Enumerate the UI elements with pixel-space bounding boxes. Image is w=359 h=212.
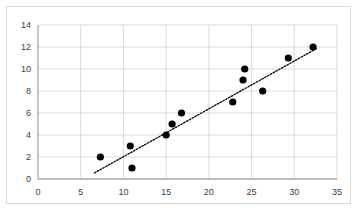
y-tick-labels: 02468101214: [21, 20, 31, 184]
axes: [38, 25, 337, 179]
y-tick-label-2: 2: [26, 152, 31, 162]
x-tick-label-25: 25: [247, 187, 257, 197]
gridlines-vertical: [81, 25, 337, 179]
scatter-plot: 02468101214 05101520253035: [7, 7, 352, 205]
chart-frame: 02468101214 05101520253035: [6, 6, 351, 204]
gridlines-horizontal: [38, 25, 337, 179]
data-points-group: [97, 43, 317, 171]
data-point[interactable]: [97, 153, 104, 160]
y-tick-label-10: 10: [21, 64, 31, 74]
x-tick-label-30: 30: [289, 187, 299, 197]
y-tick-label-0: 0: [26, 174, 31, 184]
x-tick-label-35: 35: [332, 187, 342, 197]
x-tick-label-0: 0: [35, 187, 40, 197]
data-point[interactable]: [163, 131, 170, 138]
data-point[interactable]: [127, 142, 134, 149]
data-point[interactable]: [309, 43, 316, 50]
trendline-group: [94, 48, 317, 173]
x-tick-label-20: 20: [204, 187, 214, 197]
y-tick-label-4: 4: [26, 130, 31, 140]
data-point[interactable]: [178, 109, 185, 116]
data-point[interactable]: [239, 76, 246, 83]
x-tick-labels: 05101520253035: [35, 187, 342, 197]
x-tick-label-5: 5: [78, 187, 83, 197]
data-point[interactable]: [128, 164, 135, 171]
data-point[interactable]: [241, 65, 248, 72]
trendline: [94, 48, 317, 173]
y-tick-label-6: 6: [26, 108, 31, 118]
x-tick-label-10: 10: [118, 187, 128, 197]
y-tick-label-14: 14: [21, 20, 31, 30]
data-point[interactable]: [259, 87, 266, 94]
x-tick-label-15: 15: [161, 187, 171, 197]
data-point[interactable]: [285, 54, 292, 61]
data-point[interactable]: [169, 120, 176, 127]
data-point[interactable]: [229, 98, 236, 105]
y-tick-label-12: 12: [21, 42, 31, 52]
y-tick-label-8: 8: [26, 86, 31, 96]
